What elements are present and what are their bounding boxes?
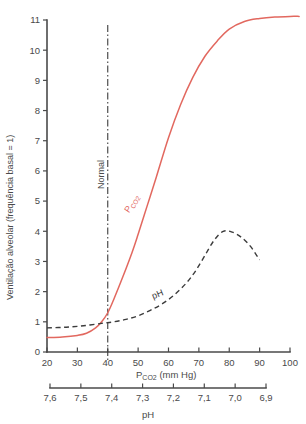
ph-series-label: pH — [150, 287, 164, 301]
ph-tick-label: 6,9 — [259, 392, 272, 403]
ph-axis: 7,67,57,47,37,27,17,06,9 pH — [43, 384, 272, 421]
ph-axis-tick-labels: 7,67,57,47,37,27,17,06,9 — [43, 392, 272, 403]
x-tick-label: 100 — [282, 357, 298, 368]
chart-figure: 01234567891011 Ventilação alveolar (freq… — [0, 0, 306, 424]
y-axis-title-text: Ventilação alveolar (frequência basal = … — [5, 135, 15, 300]
y-tick-label: 7 — [35, 135, 40, 146]
x-axis-tick-labels: 2030405060708090100 — [42, 357, 298, 368]
y-axis-tick-labels: 01234567891011 — [29, 14, 40, 357]
ph-tick-label: 7,3 — [136, 392, 149, 403]
x-tick-label: 30 — [72, 357, 83, 368]
x-axis-title: PCO2 (mm Hg) — [136, 369, 196, 381]
y-tick-label: 2 — [35, 286, 40, 297]
x-axis-title-suffix: (mm Hg) — [157, 369, 197, 380]
y-tick-label: 5 — [35, 195, 40, 206]
y-tick-label: 6 — [35, 165, 40, 176]
x-axis-title-sub: CO — [142, 374, 153, 381]
y-tick-label: 9 — [35, 75, 40, 86]
ph-tick-label: 7,1 — [198, 392, 211, 403]
x-tick-label: 90 — [254, 357, 265, 368]
x-axis: 2030405060708090100 — [42, 348, 298, 369]
normal-label: Normal — [96, 160, 106, 189]
series-group — [47, 16, 299, 337]
y-tick-label: 10 — [29, 45, 40, 56]
y-tick-label: 4 — [35, 226, 40, 237]
x-tick-label: 20 — [42, 357, 53, 368]
x-tick-label: 60 — [163, 357, 174, 368]
x-tick-label: 80 — [224, 357, 235, 368]
x-tick-label: 50 — [133, 357, 144, 368]
ph-curve — [47, 231, 260, 328]
ph-tick-label: 7,2 — [167, 392, 180, 403]
y-tick-label: 11 — [30, 14, 40, 25]
y-axis: 01234567891011 — [29, 14, 47, 357]
ph-tick-label: 7,4 — [105, 392, 118, 403]
x-axis-title-text: PCO2 (mm Hg) — [136, 369, 196, 381]
normal-reference-line-group: Normal — [96, 25, 108, 360]
ph-tick-label: 7,6 — [43, 392, 56, 403]
pco2-series-label: PCO2 — [122, 192, 142, 215]
ph-axis-title-text: pH — [142, 409, 154, 420]
y-tick-label: 8 — [35, 105, 40, 116]
ventilation-response-chart: 01234567891011 Ventilação alveolar (freq… — [0, 0, 306, 424]
y-axis-title: Ventilação alveolar (frequência basal = … — [5, 135, 15, 300]
x-tick-label: 70 — [194, 357, 205, 368]
y-tick-label: 1 — [35, 316, 40, 327]
y-tick-label: 0 — [35, 346, 40, 357]
ph-tick-label: 7,5 — [74, 392, 87, 403]
y-tick-label: 3 — [35, 256, 40, 267]
ph-tick-label: 7,0 — [229, 392, 242, 403]
pco2-curve — [47, 16, 299, 337]
series-annotations: PCO2 pH — [122, 192, 165, 301]
